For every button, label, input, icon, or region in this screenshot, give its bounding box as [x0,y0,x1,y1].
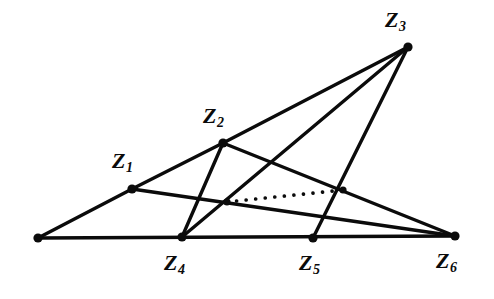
dotted-edge-group [227,190,343,202]
vertex-label-z5-subscript: 5 [313,262,320,277]
vertex-node-z5 [308,233,317,242]
vertex-label-z3-base: Z [385,7,398,32]
vertex-label-z5-base: Z [299,250,312,275]
vertex-node-z1 [127,184,136,193]
vertex-label-z1-base: Z [112,148,125,173]
vertex-node-z3 [403,42,412,51]
edge-Z2-Z6 [223,143,455,236]
vertex-label-z5: Z5 [299,252,320,277]
dotted-connector [227,190,343,202]
vertex-label-z4-subscript: 4 [178,262,185,277]
vertex-label-z6: Z6 [436,250,457,275]
edge-Z2-Z4 [182,143,223,237]
intersection-node-n_left [223,198,230,205]
geometric-diagram-figure: Z1 Z2 Z3 Z4 Z5 Z6 [0,0,494,299]
edge-Z2-Z3 [223,47,408,143]
vertex-node-p0 [33,233,42,242]
edge-Z1-Z2 [132,143,223,189]
vertex-label-z3-subscript: 3 [399,19,406,34]
vertex-label-z4: Z4 [164,252,185,277]
vertex-label-z6-base: Z [436,248,449,273]
vertex-label-z4-base: Z [164,250,177,275]
edge-Z3-Z4 [182,47,408,237]
vertex-label-z1: Z1 [112,150,133,175]
edge-P0-Z1 [38,189,132,238]
vertex-node-z2 [218,138,227,147]
edge-Z3-Z5 [313,47,408,238]
vertex-label-z2-subscript: 2 [217,115,224,130]
vertex-node-z4 [177,232,186,241]
vertex-label-z3: Z3 [385,9,406,34]
solid-edge-group [38,47,455,238]
diagram-canvas [0,0,494,299]
vertex-node-z6 [450,231,459,240]
vertex-label-z2: Z2 [203,105,224,130]
vertex-label-z1-subscript: 1 [126,160,133,175]
intersection-node-n_right [339,186,346,193]
vertex-label-z6-subscript: 6 [450,260,457,275]
vertex-label-z2-base: Z [203,103,216,128]
baseline [38,236,455,238]
